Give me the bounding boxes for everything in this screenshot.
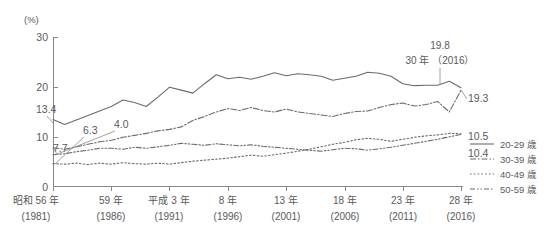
legend-label-40-49: 40-49 歳 <box>500 169 537 180</box>
y-tick-label-20: 20 <box>36 81 48 93</box>
end-label-50-59: 10.4 <box>468 147 489 159</box>
end-leader-30-39 <box>461 90 467 99</box>
y-tick-label-0: 0 <box>42 181 48 193</box>
series-line-50-59 <box>53 134 461 154</box>
x-tick-label-year-2: (1991) <box>155 211 184 222</box>
x-tick-label-era-4: 13 年 <box>274 194 298 206</box>
x-tick-label-era-5: 18 年 <box>333 194 357 206</box>
series-line-40-49 <box>53 133 461 164</box>
x-tick-label-era-7: 28 年 <box>449 194 473 206</box>
legend-label-30-39: 30-39 歳 <box>500 154 537 165</box>
x-tick-label-year-7: (2016) <box>447 211 476 222</box>
start-leader-20-29 <box>47 116 53 123</box>
start-label-30-39: 7.7 <box>53 142 68 154</box>
annotation-period: 30 年 （2016） <box>406 54 475 66</box>
y-tick-label-30: 30 <box>36 31 48 43</box>
x-tick-label-year-3: (1996) <box>214 211 243 222</box>
x-tick-marks <box>53 186 461 191</box>
legend-label-50-59: 50-59 歳 <box>500 184 537 195</box>
x-tick-label-year-6: (2011) <box>389 211 417 222</box>
x-tick-label-year-1: (1986) <box>97 211 126 222</box>
x-tick-label-era-2: 平成 3 年 <box>148 194 189 206</box>
x-tick-label-era-6: 23 年 <box>391 194 415 206</box>
start-label-40-49: 6.3 <box>83 124 98 136</box>
x-tick-label-era-3: 8 年 <box>219 194 237 206</box>
annotation-value: 19.8 <box>430 40 450 51</box>
x-tick-label-era-1: 59 年 <box>99 194 123 206</box>
legend-label-20-29: 20-29 歳 <box>500 139 537 150</box>
y-tick-label-10: 10 <box>36 131 48 143</box>
end-label-30-39: 19.3 <box>468 92 489 104</box>
start-label-20-29: 13.4 <box>36 103 57 115</box>
x-tick-label-era-0: 昭和 56 年 <box>13 194 60 206</box>
y-axis-unit-label: (%) <box>24 14 39 25</box>
x-tick-label-year-5: (2006) <box>331 211 360 222</box>
series-line-20-29 <box>53 72 461 124</box>
x-tick-label-year-0: (1981) <box>22 211 51 222</box>
line-chart: (%) 30 20 10 0 昭和 56 年 (1981) 59 年 (1986… <box>0 0 550 241</box>
chart-canvas: (%) 30 20 10 0 昭和 56 年 (1981) 59 年 (1986… <box>0 0 550 241</box>
x-tick-label-year-4: (2001) <box>272 211 301 222</box>
end-label-40-49: 10.5 <box>468 130 489 142</box>
start-label-50-59: 4.0 <box>114 118 129 130</box>
